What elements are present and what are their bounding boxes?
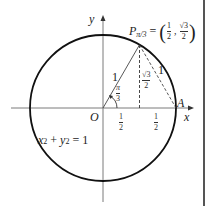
x-axis-label: x	[184, 111, 189, 123]
height-label: √3 2	[142, 71, 150, 90]
page-border	[203, 0, 205, 206]
segment-num: 1	[154, 113, 158, 121]
eq-rhs: = 1	[72, 134, 88, 146]
base-segment-1-label: 1 2	[119, 113, 123, 132]
coord-x-fraction: 1 2	[167, 22, 171, 41]
equals-sign: =	[150, 25, 157, 37]
height-num: √3	[142, 71, 150, 79]
base-segment-2-label: 1 2	[154, 113, 158, 132]
coord-y-fraction: √3 2	[180, 22, 188, 41]
chord-label: 1	[158, 64, 164, 76]
y-axis-label: y	[89, 13, 94, 25]
point-a-label: A	[177, 97, 184, 109]
y-axis-arrow-icon	[101, 15, 106, 21]
coord-x-den: 2	[167, 33, 171, 41]
angle-num: π	[116, 84, 120, 92]
angle-den: 3	[116, 95, 120, 103]
eq-x-exp: 2	[43, 138, 47, 146]
segment-den: 2	[154, 124, 158, 132]
height-den: 2	[144, 82, 148, 90]
point-p-subscript: π/3	[136, 31, 146, 39]
point-p-name: P	[129, 25, 136, 37]
coord-y-den: 2	[182, 33, 186, 41]
coord-y-num: √3	[180, 22, 188, 30]
circle-equation: x 2 + y 2 = 1	[38, 134, 88, 146]
radius-op	[103, 45, 140, 108]
close-paren: )	[189, 20, 196, 42]
segment-num: 1	[119, 113, 123, 121]
angle-label: π 3	[116, 84, 120, 103]
segment-den: 2	[119, 124, 123, 132]
radius-label: 1	[112, 71, 118, 83]
eq-y-exp: 2	[65, 138, 69, 146]
point-p-label: P π/3 = ( 1 2 , √3 2 )	[129, 21, 196, 41]
coord-x-num: 1	[167, 22, 171, 30]
open-paren: (	[159, 20, 166, 42]
comma: ,	[174, 26, 177, 36]
origin-label: O	[90, 111, 99, 123]
eq-plus: +	[50, 134, 57, 146]
